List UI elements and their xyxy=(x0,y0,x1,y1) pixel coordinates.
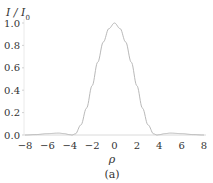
intensity-chart: 0.00.20.40.60.81.0 −8−6−4−202468 I / I0 … xyxy=(0,0,213,183)
x-tick-label: 8 xyxy=(201,140,207,151)
axes xyxy=(24,19,206,135)
x-tick-label: −4 xyxy=(62,140,77,151)
y-tick-label: 0.6 xyxy=(4,62,20,73)
y-tick-label: 0.0 xyxy=(4,130,20,141)
x-tick-label: −2 xyxy=(85,140,100,151)
x-tick-label: 0 xyxy=(111,140,117,151)
y-tick-label: 0.2 xyxy=(4,107,20,118)
x-tick-label: −8 xyxy=(18,140,33,151)
y-ticks: 0.00.20.40.60.81.0 xyxy=(4,18,24,141)
x-tick-label: 2 xyxy=(134,140,140,151)
y-tick-label: 1.0 xyxy=(4,18,20,29)
x-tick-label: −6 xyxy=(40,140,55,151)
x-ticks: −8−6−4−202468 xyxy=(18,140,208,151)
x-axis-label: ρ xyxy=(108,153,116,166)
y-tick-label: 0.4 xyxy=(4,85,20,96)
x-tick-label: 6 xyxy=(178,140,184,151)
intensity-curve xyxy=(25,23,204,135)
y-tick-label: 0.8 xyxy=(4,40,20,51)
figure-caption: (a) xyxy=(104,168,119,181)
x-tick-label: 4 xyxy=(156,140,162,151)
